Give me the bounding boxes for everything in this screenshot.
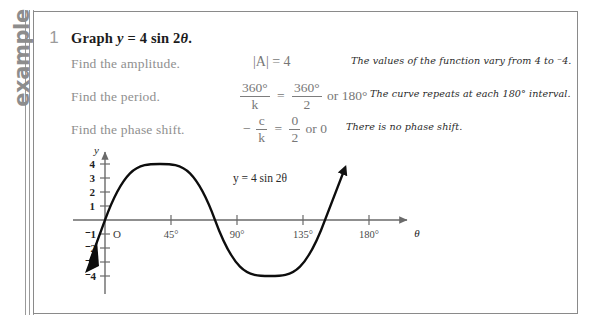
numerator: 360° — [240, 81, 270, 96]
example-page: example 1 Graph y = 4 sin 2θ. Find the a… — [0, 0, 593, 325]
y-axis-label: y — [93, 144, 99, 156]
x-tick-label: 135° — [293, 229, 313, 240]
note-period: The curve repeats at each 180° interval. — [370, 88, 571, 99]
y-tick-label: 1 — [90, 200, 96, 212]
math-amplitude: |A| = 4 — [253, 54, 291, 70]
y-tick-label: ⁻1 — [85, 228, 97, 240]
y-tick-label: 2 — [90, 186, 96, 198]
numerator: c — [256, 114, 267, 129]
equals-sign: = — [273, 88, 289, 104]
title-end: . — [188, 30, 192, 46]
math-phase-result: or 0 — [304, 121, 327, 137]
fraction-phase-right: 0 2 — [289, 114, 300, 144]
x-axis-label: θ — [414, 227, 420, 239]
numerator: 0 — [289, 114, 300, 129]
note-amplitude-negative: ⁻4. — [557, 55, 572, 66]
prompt-period: Find the period. — [71, 89, 160, 105]
math-phase-shift: − c k = 0 2 or 0 — [243, 114, 327, 144]
title-prefix: Graph — [71, 30, 117, 46]
math-period: 360° k = 360° 2 or 180° — [240, 81, 367, 111]
note-phase-shift: There is no phase shift. — [346, 121, 462, 132]
numerator: 360° — [292, 81, 322, 96]
fraction-period-left: 360° k — [240, 81, 270, 111]
title-variable: y — [117, 30, 124, 46]
x-tick-label: 90° — [230, 229, 245, 240]
x-tick-label: 45° — [164, 229, 179, 240]
note-amplitude-text: The values of the function vary from 4 t… — [351, 55, 557, 66]
note-amplitude: The values of the function vary from 4 t… — [351, 55, 572, 66]
page-title: Graph y = 4 sin 2θ. — [71, 30, 192, 47]
denominator: 2 — [292, 96, 322, 112]
curve-equation-label: y = 4 sin 2θ — [233, 172, 288, 185]
denominator: k — [240, 96, 270, 112]
x-tick-label: 180° — [359, 229, 379, 240]
example-tab-label: example — [10, 3, 34, 113]
fraction-period-right: 360° 2 — [292, 81, 322, 111]
prompt-amplitude: Find the amplitude. — [71, 56, 180, 72]
origin-label: O — [113, 228, 121, 240]
title-rest: = 4 sin 2 — [124, 30, 181, 46]
example-number: 1 — [45, 28, 63, 48]
fraction-phase-left: c k — [256, 114, 267, 144]
sine-graph: 4 3 2 1 ⁻1 ⁻2 ⁻3 ⁻4 45° 90° 135° 180° y … — [55, 142, 435, 307]
prompt-phase-shift: Find the phase shift. — [71, 122, 185, 138]
math-period-result: or 180° — [325, 88, 367, 104]
y-tick-label: 3 — [90, 172, 96, 184]
minus-sign: − — [243, 121, 253, 137]
y-tick-label: 4 — [90, 158, 96, 170]
equals-sign: = — [270, 121, 286, 137]
graph-svg: 4 3 2 1 ⁻1 ⁻2 ⁻3 ⁻4 45° 90° 135° 180° y … — [55, 142, 435, 307]
